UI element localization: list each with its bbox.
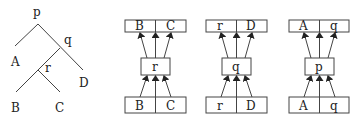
top-left: B: [135, 19, 144, 33]
top-right: D: [246, 19, 256, 33]
top-right: q: [330, 19, 338, 33]
bottom-right: C: [166, 99, 175, 113]
reduction-p: A q p A q: [289, 19, 349, 113]
reduction-r: B C r B C: [125, 19, 186, 113]
reduction-q: r D q r D: [206, 19, 267, 113]
top-left: A: [298, 19, 308, 33]
bottom-left: A: [298, 99, 308, 113]
node-q: q: [64, 33, 72, 47]
top-left: r: [217, 19, 223, 33]
leaf-D: D: [79, 76, 89, 90]
diagram-canvas: p q r A B C D B C r B C r D q r D: [0, 0, 358, 120]
middle-label: r: [152, 60, 158, 74]
node-p: p: [33, 5, 41, 19]
leaf-A: A: [10, 55, 20, 69]
middle-label: q: [232, 60, 240, 74]
bottom-right: D: [246, 99, 256, 113]
middle-label: p: [315, 60, 323, 74]
bottom-left: B: [135, 99, 144, 113]
node-r: r: [45, 61, 51, 75]
edge-p-A: [15, 24, 38, 46]
bottom-right: q: [330, 99, 338, 113]
top-right: C: [166, 19, 175, 33]
bottom-left: r: [217, 99, 223, 113]
syntax-tree: p q r A B C D: [10, 5, 89, 115]
leaf-C: C: [55, 101, 64, 115]
leaf-B: B: [11, 101, 20, 115]
